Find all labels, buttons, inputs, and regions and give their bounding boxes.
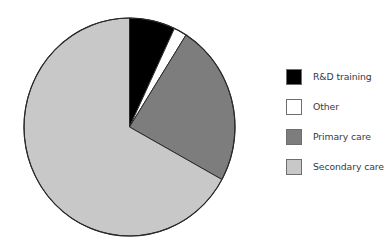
legend-label: Primary care — [313, 131, 371, 142]
pie-chart — [0, 0, 260, 252]
legend-item-primary-care: Primary care — [286, 129, 384, 146]
legend-swatch-rd-training — [286, 69, 302, 85]
legend-label: Secondary care — [313, 161, 384, 172]
legend-item-other: Other — [286, 99, 384, 116]
legend-swatch-other — [286, 99, 302, 115]
legend-item-secondary-care: Secondary care — [286, 159, 384, 176]
legend-label: Other — [313, 101, 339, 112]
pie-slices — [24, 18, 235, 236]
legend-swatch-secondary-care — [286, 159, 302, 175]
legend-swatch-primary-care — [286, 129, 302, 145]
legend-label: R&D training — [313, 71, 372, 82]
legend-item-rd-training: R&D training — [286, 69, 384, 86]
